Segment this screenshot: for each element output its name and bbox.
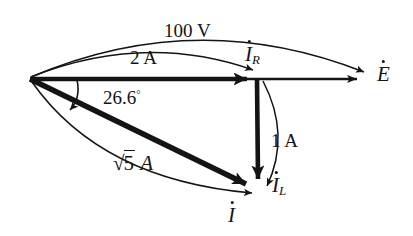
label-total-current-magnitude: √5 A [113,153,153,174]
arc-voltage-100v [31,40,364,77]
phasor-diagram-figure: 100 V 2 A 26.6° √5 A 1 A IR IL I E [0,0,413,236]
label-phasor-ir: IR [245,44,260,66]
arc-phase-angle [70,80,78,110]
phasor-il-subscript: L [279,183,286,198]
phasor-ir-symbol: I [245,44,252,65]
label-phasor-i: I [228,205,235,226]
label-voltage-magnitude: 100 V [164,21,211,40]
label-phasor-il: IL [272,175,286,197]
phasor-ir-subscript: R [252,52,260,67]
radicand-value: 5 [124,150,136,175]
total-current-unit: A [140,151,153,175]
label-resistive-current-magnitude: 2 A [130,48,157,67]
label-phase-angle: 26.6° [103,88,141,107]
label-phasor-e: E [377,64,390,85]
phasor-il-symbol: I [272,175,279,196]
radical-sign: √ [113,151,125,175]
phasor-e-symbol: E [377,64,390,85]
phasor-i-symbol: I [228,205,235,226]
degree-symbol: ° [136,88,140,100]
phasor-vector-il [257,79,258,179]
phase-angle-value: 26.6 [103,87,136,108]
label-inductive-current-magnitude: 1 A [271,131,298,150]
